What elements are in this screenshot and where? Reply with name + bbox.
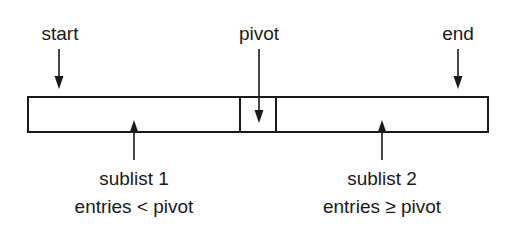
end-label: end [442, 23, 474, 44]
start-label: start [42, 23, 80, 44]
sublist2-condition: entries ≥ pivot [323, 196, 442, 217]
start-arrow-icon [55, 49, 64, 89]
end-arrow-icon [454, 49, 463, 89]
partition-diagram: start pivot end sublist 1 entries < pivo… [0, 0, 515, 228]
pivot-label: pivot [239, 23, 280, 44]
sublist2-title: sublist 2 [347, 168, 417, 189]
sublist2-arrow-icon [378, 120, 387, 160]
sublist1-title: sublist 1 [99, 168, 169, 189]
sublist1-arrow-icon [130, 120, 139, 160]
pivot-arrow-icon [255, 49, 264, 123]
sublist1-condition: entries < pivot [75, 196, 195, 217]
